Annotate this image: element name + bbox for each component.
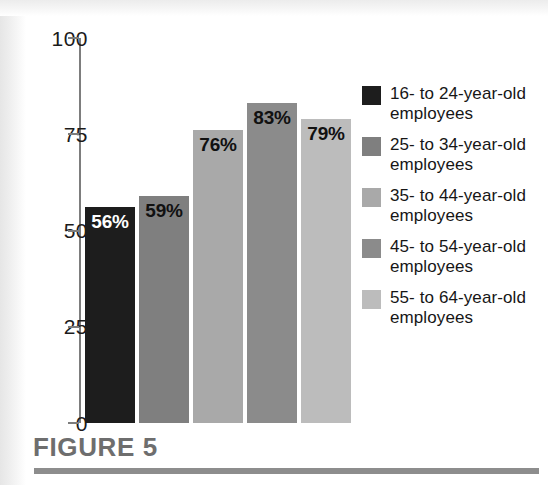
legend-item[interactable]: 45- to 54-year-old employees bbox=[362, 237, 548, 277]
legend-item-label: 45- to 54-year-old employees bbox=[390, 237, 548, 277]
legend-item-label: 16- to 24-year-old employees bbox=[390, 84, 548, 124]
bar-value-label: 59% bbox=[139, 201, 189, 220]
legend-item[interactable]: 55- to 64-year-old employees bbox=[362, 288, 548, 328]
chart-legend: 16- to 24-year-old employees25- to 34-ye… bbox=[362, 84, 548, 339]
caption-rule bbox=[34, 468, 539, 474]
figure-panel: 1007550250 56%59%76%83%79% 16- to 24-yea… bbox=[0, 0, 548, 485]
bar[interactable]: 56% bbox=[85, 207, 135, 423]
bar-value-label: 76% bbox=[193, 135, 243, 154]
y-axis-tick-mark bbox=[68, 422, 79, 424]
legend-item[interactable]: 25- to 34-year-old employees bbox=[362, 135, 548, 175]
legend-item-label: 35- to 44-year-old employees bbox=[390, 186, 548, 226]
bar[interactable]: 59% bbox=[139, 196, 189, 423]
y-axis-tick-mark bbox=[68, 37, 79, 39]
y-axis-tick-mark bbox=[68, 230, 79, 232]
bar-value-label: 56% bbox=[85, 212, 135, 231]
bar[interactable]: 83% bbox=[247, 103, 297, 423]
figure-caption: FIGURE 5 bbox=[33, 432, 158, 463]
legend-item[interactable]: 16- to 24-year-old employees bbox=[362, 84, 548, 124]
legend-swatch-icon bbox=[362, 137, 381, 156]
legend-swatch-icon bbox=[362, 239, 381, 258]
legend-swatch-icon bbox=[362, 86, 381, 105]
y-axis-tick-mark bbox=[68, 326, 79, 328]
y-axis-tick-mark bbox=[68, 133, 79, 135]
legend-item[interactable]: 35- to 44-year-old employees bbox=[362, 186, 548, 226]
bar-series: 56%59%76%83%79% bbox=[81, 38, 351, 423]
bar[interactable]: 76% bbox=[193, 130, 243, 423]
legend-item-label: 55- to 64-year-old employees bbox=[390, 288, 548, 328]
legend-swatch-icon bbox=[362, 188, 381, 207]
legend-item-label: 25- to 34-year-old employees bbox=[390, 135, 548, 175]
bar-value-label: 83% bbox=[247, 108, 297, 127]
bar-chart: 1007550250 56%59%76%83%79% bbox=[0, 0, 360, 440]
legend-swatch-icon bbox=[362, 290, 381, 309]
bar[interactable]: 79% bbox=[301, 119, 351, 423]
bar-value-label: 79% bbox=[301, 124, 351, 143]
